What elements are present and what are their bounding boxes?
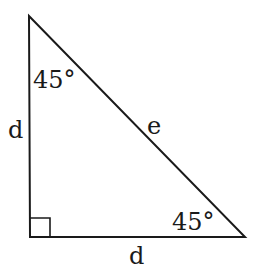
triangle-diagram: 45° 45° d d e	[0, 0, 256, 274]
hypotenuse-label: e	[147, 112, 161, 140]
bottom-right-angle-label: 45°	[172, 208, 215, 236]
top-angle-label: 45°	[33, 66, 76, 94]
right-angle-marker	[30, 218, 50, 237]
left-side-label: d	[8, 116, 23, 144]
bottom-side-label: d	[129, 242, 144, 270]
triangle	[29, 16, 245, 237]
